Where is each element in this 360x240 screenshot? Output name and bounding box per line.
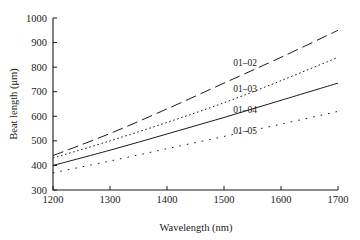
y-tick-label: 600 — [31, 111, 47, 122]
axis-spines — [53, 18, 338, 190]
x-tick-label: 1200 — [43, 194, 64, 205]
x-tick-label: 1600 — [271, 194, 292, 205]
y-tick-label: 800 — [31, 62, 47, 73]
series-label-5: 01–05 — [233, 126, 257, 136]
y-axis-title: Beat length (μm) — [8, 68, 20, 140]
chart-figure: 120013001400150016001700 300400500600700… — [0, 0, 360, 240]
x-tick-label: 1300 — [100, 194, 121, 205]
series-label-3: 01–03 — [233, 84, 257, 94]
axis-spine — [53, 18, 338, 190]
y-tick-label: 700 — [31, 86, 47, 97]
y-tick-label: 1000 — [26, 13, 47, 24]
data-series-curves — [53, 30, 338, 173]
beat-length-vs-wavelength-chart: 120013001400150016001700 300400500600700… — [0, 0, 360, 240]
series-line-5 — [53, 111, 338, 172]
y-tick-label: 300 — [31, 185, 47, 196]
x-axis-tick-labels: 120013001400150016001700 — [43, 194, 349, 205]
x-tick-label: 1700 — [328, 194, 349, 205]
x-tick-label: 1500 — [214, 194, 235, 205]
series-label-2: 01–02 — [233, 58, 257, 68]
y-tick-label: 400 — [31, 160, 47, 171]
x-tick-label: 1400 — [157, 194, 178, 205]
series-line-2 — [53, 30, 338, 155]
series-label-4: 01–04 — [233, 105, 257, 115]
x-axis-ticks — [53, 186, 338, 190]
y-axis-tick-labels: 3004005006007008009001000 — [26, 13, 47, 196]
x-axis-title: Wavelength (nm) — [160, 222, 233, 234]
series-line-4 — [53, 83, 338, 165]
y-tick-label: 500 — [31, 135, 47, 146]
y-tick-label: 900 — [31, 37, 47, 48]
